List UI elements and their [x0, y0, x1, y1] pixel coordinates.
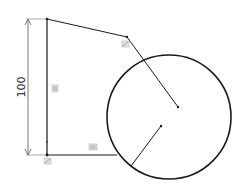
sketch-radius-line[interactable]	[131, 126, 161, 166]
sketch-point-center[interactable]	[177, 106, 179, 108]
sketch-point-mid	[46, 141, 48, 143]
coincident-relation-icon-bottom[interactable]	[44, 158, 51, 164]
sketch-canvas[interactable]: 100	[0, 0, 243, 194]
horizontal-relation-icon[interactable]	[89, 144, 97, 150]
tangent-relation-icon-top[interactable]	[122, 41, 129, 47]
vertical-relation-icon[interactable]	[52, 85, 58, 92]
sketch-circle[interactable]	[107, 55, 231, 179]
sketch-point-bottom-left[interactable]	[46, 154, 49, 157]
dimension-value[interactable]: 100	[15, 77, 28, 98]
dimension-100[interactable]: 100	[15, 19, 31, 155]
sketch-point-radius-end[interactable]	[160, 125, 162, 127]
sketch-point-top-left[interactable]	[46, 18, 48, 20]
sketch-line-top[interactable]	[47, 19, 127, 37]
sketch-line-to-center[interactable]	[127, 37, 178, 107]
sketch-point-top-right[interactable]	[126, 36, 128, 38]
